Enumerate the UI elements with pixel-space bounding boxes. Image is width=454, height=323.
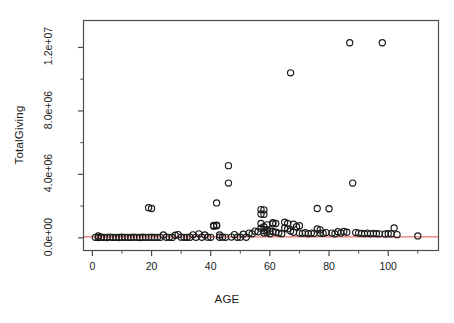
x-tick-label: 20 (132, 260, 172, 272)
y-tick-label: 4.0e+06 (42, 146, 54, 200)
x-tick-label: 40 (191, 260, 231, 272)
y-tick-label: 1.2e+07 (42, 19, 54, 73)
data-point (287, 70, 293, 76)
y-axis-title: TotalGiving (13, 85, 25, 185)
data-point (225, 180, 231, 186)
plot-canvas (0, 0, 454, 323)
data-point (314, 205, 320, 211)
data-point (347, 40, 353, 46)
data-point (350, 180, 356, 186)
y-tick-label: 8.0e+06 (42, 83, 54, 137)
data-point (379, 40, 385, 46)
x-tick-label: 60 (250, 260, 290, 272)
scatter-plot-figure: AGE TotalGiving 020406080100 0.0e+004.0e… (0, 0, 454, 323)
data-points-layer (92, 40, 421, 241)
data-point (225, 163, 231, 169)
data-point (391, 225, 397, 231)
x-tick-label: 100 (368, 260, 408, 272)
x-tick-label: 80 (309, 260, 349, 272)
data-point (214, 200, 220, 206)
data-point (415, 233, 421, 239)
x-tick-label: 0 (72, 260, 112, 272)
y-tick-label: 0.0e+00 (42, 210, 54, 264)
x-axis-title: AGE (0, 293, 454, 305)
axes-layer (78, 21, 439, 257)
data-point (326, 206, 332, 212)
